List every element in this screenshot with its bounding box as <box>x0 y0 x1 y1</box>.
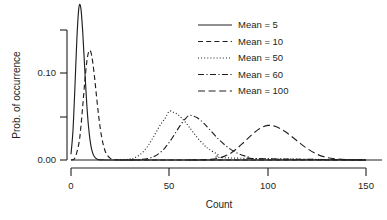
legend-label-mean-100: Mean = 100 <box>238 85 288 96</box>
poisson-distribution-chart: 0.10 0.00 Prob. of occurrence 0 50 100 1… <box>0 0 387 220</box>
legend-label-mean-50: Mean = 50 <box>238 52 283 63</box>
x-axis-title: Count <box>206 199 233 210</box>
y-tick-label-000: 0.00 <box>38 154 57 165</box>
x-tick-label-50: 50 <box>164 180 175 191</box>
legend-label-mean-5: Mean = 5 <box>238 19 278 30</box>
x-tick-label-100: 100 <box>260 180 276 191</box>
legend-label-mean-60: Mean = 60 <box>238 69 283 80</box>
chart-background <box>0 0 387 220</box>
x-tick-label-150: 150 <box>358 180 374 191</box>
legend-label-mean-10: Mean = 10 <box>238 36 283 47</box>
y-tick-label-010: 0.10 <box>38 67 57 78</box>
y-axis-title: Prob. of occurrence <box>11 51 22 139</box>
x-tick-label-0: 0 <box>68 180 73 191</box>
